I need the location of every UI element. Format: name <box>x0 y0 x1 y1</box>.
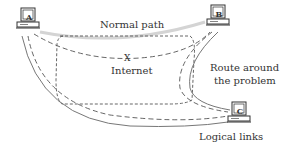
normal-path-label: Normal path <box>100 19 164 30</box>
solid-link-a-c <box>22 36 228 127</box>
node-c-label: C <box>235 106 245 117</box>
break-mark: X <box>124 53 130 64</box>
node-a-label: A <box>24 12 34 23</box>
route-label-line2: the problem <box>214 75 276 86</box>
node-b-label: B <box>214 9 224 20</box>
network-diagram: A B C Normal path X Internet Route aroun… <box>0 0 281 148</box>
internet-label: Internet <box>111 65 152 76</box>
route-label-line1: Route around <box>210 62 279 73</box>
dashed-link-a-c <box>28 36 228 120</box>
logical-links-label: Logical links <box>199 131 263 142</box>
